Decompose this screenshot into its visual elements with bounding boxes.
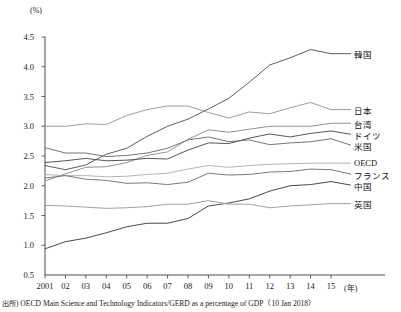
- source-note: 出所) OECD Main Science and Technology Ind…: [2, 297, 316, 308]
- source-text: OECD Main Science and Technology Indicat…: [20, 299, 316, 308]
- series-line-6: [45, 169, 331, 184]
- series-line-5: [45, 163, 331, 177]
- chart-series: [45, 50, 331, 249]
- y-tick-label: 0.5: [8, 270, 34, 280]
- series-line-8: [45, 201, 331, 209]
- series-line-2: [45, 123, 331, 181]
- legend-label-7: 中国: [354, 180, 372, 192]
- series-line-1: [45, 102, 331, 126]
- source-tag: 出所): [2, 300, 18, 308]
- legend-label-4: 米国: [354, 140, 372, 152]
- chart-figure: (%) 0.51.01.52.02.53.03.54.04.5 20010203…: [0, 0, 401, 312]
- line-chart-plot: [0, 0, 401, 312]
- series-line-7: [45, 182, 331, 249]
- y-tick-label: 3.5: [8, 92, 34, 102]
- legend-label-8: 英国: [354, 198, 372, 210]
- y-tick-label: 1.5: [8, 211, 34, 221]
- legend-leader-lines: [331, 54, 351, 204]
- series-line-4: [45, 137, 331, 157]
- legend-label-5: OECD: [354, 158, 377, 168]
- legend-label-0: 韓国: [354, 48, 372, 60]
- y-tick-label: 1.0: [8, 240, 34, 250]
- legend-label-1: 日本: [354, 104, 372, 116]
- y-tick-label: 4.0: [8, 62, 34, 72]
- series-line-0: [45, 50, 331, 170]
- chart-axes: [42, 37, 386, 279]
- y-tick-label: 3.0: [8, 121, 34, 131]
- series-line-3: [45, 131, 331, 163]
- x-axis-unit-label: (年): [344, 282, 357, 293]
- y-tick-label: 4.5: [8, 32, 34, 42]
- x-tick-label: 15: [318, 281, 344, 291]
- y-tick-label: 2.0: [8, 181, 34, 191]
- y-tick-label: 2.5: [8, 151, 34, 161]
